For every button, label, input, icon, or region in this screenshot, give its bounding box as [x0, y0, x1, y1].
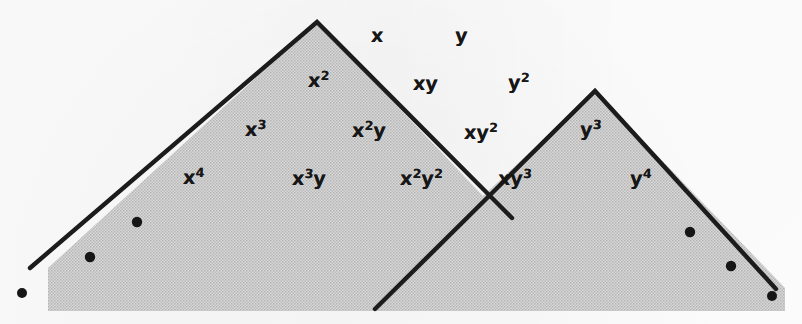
triangles-diagram [0, 0, 802, 324]
label-y4: y4 [630, 169, 653, 188]
label-x2: x2 [308, 71, 330, 90]
dot-right-mid [726, 261, 736, 271]
label-x: x [371, 26, 384, 45]
label-y: y [455, 26, 469, 45]
label-xy3: xy3 [498, 169, 533, 188]
dot-right-outer [767, 291, 777, 301]
label-y3: y3 [580, 120, 603, 139]
label-y2: y2 [508, 73, 531, 92]
figure-canvas: xyx2xyy2x3x2yxy2y3x4x3yx2y2xy3y4 [0, 0, 802, 324]
label-xy: xy [413, 74, 439, 93]
label-xy2: xy2 [464, 123, 499, 142]
dot-right-inner [685, 227, 695, 237]
label-x3y: x3y [292, 169, 327, 188]
dot-left-outer [17, 288, 27, 298]
dot-left-mid [85, 252, 95, 262]
label-x2y: x2y [352, 121, 387, 140]
label-x3: x3 [245, 120, 267, 139]
dot-left-inner [132, 217, 142, 227]
label-x2y2: x2y2 [400, 169, 444, 188]
label-x4: x4 [183, 168, 205, 187]
